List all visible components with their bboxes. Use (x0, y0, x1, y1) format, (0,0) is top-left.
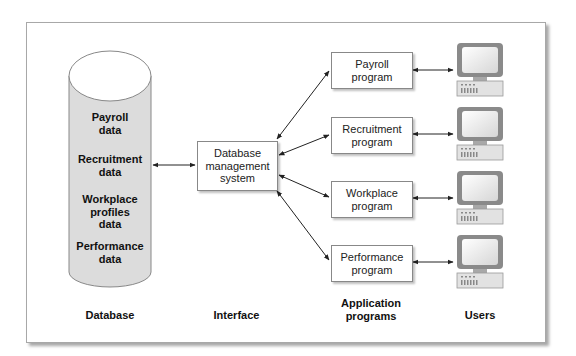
program-box-recruitment: Recruitment program (331, 117, 413, 154)
db-item-recruitment: Recruitment data (68, 153, 152, 178)
arrow-dbms-payroll (277, 71, 329, 139)
db-item-workplace: Workplace profiles data (68, 193, 152, 231)
arrow-dbms-performance (277, 191, 329, 260)
column-label-application-programs: Application programs (331, 297, 411, 323)
program-box-payroll: Payroll program (331, 52, 413, 89)
computer-icon (457, 43, 503, 96)
db-item-performance: Performance data (68, 240, 152, 265)
arrow-dbms-workplace (279, 175, 329, 197)
computer-icon (457, 171, 503, 224)
computer-icon (457, 107, 503, 160)
column-label-users: Users (455, 309, 505, 322)
arrow-dbms-recruitment (279, 135, 329, 155)
program-box-workplace: Workplace program (331, 181, 413, 218)
db-item-payroll: Payroll data (68, 111, 152, 136)
dbms-box: Database management system (197, 141, 278, 191)
column-label-interface: Interface (197, 309, 276, 322)
program-box-performance: Performance program (331, 245, 413, 282)
computer-icon (457, 235, 503, 288)
column-label-database: Database (70, 309, 150, 322)
diagram-graphics (0, 0, 576, 356)
